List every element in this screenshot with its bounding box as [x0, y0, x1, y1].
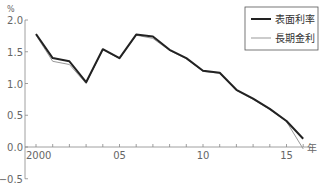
series-lines	[36, 34, 303, 149]
x-tick-label: 05	[113, 150, 126, 161]
y-tick-label: 0.5	[7, 110, 23, 121]
legend-label-long-term-rate: 長期金利	[275, 32, 315, 44]
y-axis-unit: %	[7, 5, 15, 14]
y-tick-label: −0.5	[0, 174, 23, 185]
x-axis-unit: 年	[307, 142, 317, 154]
x-tick-label: 15	[280, 150, 293, 161]
line-chart: 2.01.51.00.50.0−0.52000051015 表面利率 長期金利 …	[0, 0, 321, 191]
y-tick-label: 1.0	[7, 79, 23, 90]
y-tick-label: 0.0	[7, 142, 23, 153]
y-tick-label: 2.0	[7, 15, 23, 26]
x-tick-label: 10	[197, 150, 210, 161]
x-tick-label: 2000	[26, 150, 51, 161]
y-tick-label: 1.5	[7, 47, 23, 58]
series-line	[36, 35, 303, 149]
legend: 表面利率 長期金利	[245, 7, 318, 50]
legend-label-coupon-rate: 表面利率	[275, 13, 315, 25]
